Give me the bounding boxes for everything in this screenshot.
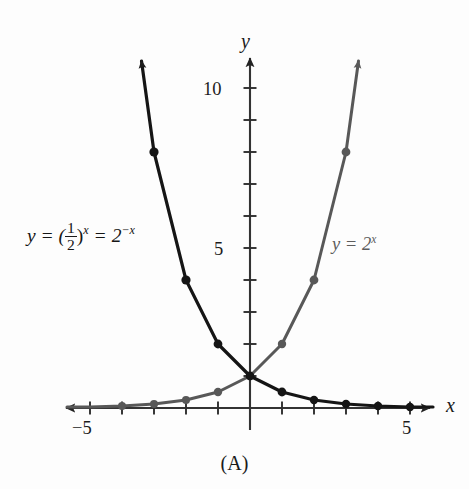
curve-label-left-lead: y = ( — [27, 225, 65, 246]
curve-label-half-pow-x: y = (12)x = 2−x — [27, 221, 135, 254]
fraction-one-half: 12 — [65, 220, 77, 253]
curve-label-right-lead: y = 2 — [332, 234, 371, 254]
curve-label-two-pow-x: y = 2x — [332, 234, 376, 254]
figure-caption: (A) — [0, 452, 469, 475]
curve-label-left-middle: = 2 — [89, 225, 122, 246]
exponential-functions-figure: y x 10 5 −5 5 y = (12)x = 2−x y = 2x (A) — [0, 0, 469, 489]
fraction-denominator: 2 — [65, 236, 77, 253]
curve-label-right-exponent: x — [371, 233, 376, 245]
curve-label-left-exponent-2: −x — [121, 223, 135, 237]
y-tick-label-5: 5 — [214, 239, 223, 260]
y-tick-label-10: 10 — [203, 79, 222, 100]
x-tick-label-5: 5 — [402, 418, 411, 439]
x-axis-name: x — [446, 395, 455, 415]
y-axis-name: y — [241, 31, 250, 51]
fraction-numerator: 1 — [65, 220, 77, 236]
curve-half-pow-x — [142, 61, 434, 411]
x-tick-label-minus-5: −5 — [72, 418, 92, 439]
